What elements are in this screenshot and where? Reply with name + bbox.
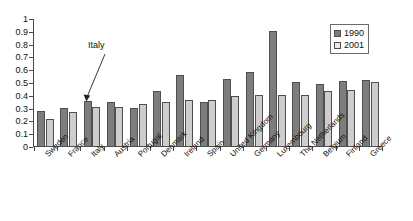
legend: 1990 2001	[330, 24, 369, 54]
bar-group	[104, 19, 127, 147]
bar-group	[243, 19, 266, 147]
x-axis-tick-mark	[266, 147, 267, 151]
bar	[269, 31, 277, 147]
x-axis-tick-mark	[359, 147, 360, 151]
bar	[139, 104, 147, 147]
bar	[107, 102, 115, 147]
bar	[208, 100, 216, 147]
x-axis-tick-mark	[173, 147, 174, 151]
y-axis-tick-label: 0.8	[15, 40, 28, 49]
bar	[153, 91, 161, 147]
y-axis-tick-label: 1	[23, 15, 28, 24]
x-axis-tick-mark	[57, 147, 58, 151]
y-axis-tick-label: 0.1	[15, 130, 28, 139]
x-axis-tick-mark	[104, 147, 105, 151]
bar-group	[266, 19, 289, 147]
bar-group	[80, 19, 103, 147]
bar	[316, 84, 324, 147]
x-axis-tick-mark	[336, 147, 337, 151]
bar	[231, 96, 239, 147]
y-axis-tick-label: 0	[23, 143, 28, 152]
bar	[115, 107, 123, 147]
bar	[46, 119, 54, 147]
bar	[371, 82, 379, 147]
legend-label-1990: 1990	[344, 29, 364, 38]
bar	[37, 111, 45, 147]
bar-group	[57, 19, 80, 147]
y-axis-tick-label: 0.6	[15, 66, 28, 75]
bar	[130, 108, 138, 147]
legend-label-2001: 2001	[344, 41, 364, 50]
bar	[301, 95, 309, 147]
legend-swatch-1990-icon	[334, 30, 341, 37]
bar	[60, 108, 68, 147]
y-axis-tick-label: 0.2	[15, 117, 28, 126]
bar-group	[127, 19, 150, 147]
x-axis-tick-mark	[196, 147, 197, 151]
x-axis-tick-mark	[312, 147, 313, 151]
bar	[362, 80, 370, 147]
bar	[324, 91, 332, 147]
y-axis-tick-label: 0.3	[15, 104, 28, 113]
bar	[255, 95, 263, 147]
bar-chart: 00.10.20.30.40.50.60.70.80.91 SwedenFran…	[0, 0, 413, 221]
y-axis-tick-label: 0.4	[15, 91, 28, 100]
bar-group	[289, 19, 312, 147]
bar-group	[150, 19, 173, 147]
legend-swatch-2001-icon	[334, 42, 341, 49]
bar	[185, 100, 193, 147]
x-axis-tick-mark	[289, 147, 290, 151]
y-axis-tick-mark	[29, 147, 33, 148]
bar-group	[220, 19, 243, 147]
bar	[278, 95, 286, 147]
x-axis-tick-mark	[127, 147, 128, 151]
bar	[176, 75, 184, 147]
x-axis-tick-mark	[80, 147, 81, 151]
bar	[92, 107, 100, 147]
bar	[69, 112, 77, 147]
bar-group	[34, 19, 57, 147]
italy-annotation-label: Italy	[88, 41, 105, 50]
bar	[246, 72, 254, 147]
x-axis-tick-mark	[220, 147, 221, 151]
y-axis-tick-labels: 00.10.20.30.40.50.60.70.80.91	[0, 19, 28, 147]
y-axis-tick-label: 0.5	[15, 79, 28, 88]
x-axis-tick-mark	[243, 147, 244, 151]
bar	[223, 79, 231, 147]
x-axis-tick-mark	[34, 147, 35, 151]
bar-group	[173, 19, 196, 147]
x-axis-tick-mark	[382, 147, 383, 151]
y-axis-tick-label: 0.9	[15, 27, 28, 36]
bar	[292, 82, 300, 147]
bar	[347, 90, 355, 147]
bar	[200, 102, 208, 147]
legend-item-2001[interactable]: 2001	[334, 39, 364, 51]
y-axis-tick-label: 0.7	[15, 53, 28, 62]
legend-item-1990[interactable]: 1990	[334, 27, 364, 39]
x-axis-tick-mark	[150, 147, 151, 151]
bar	[84, 101, 92, 147]
bar	[339, 81, 347, 147]
bar	[162, 102, 170, 147]
bar-group	[196, 19, 219, 147]
